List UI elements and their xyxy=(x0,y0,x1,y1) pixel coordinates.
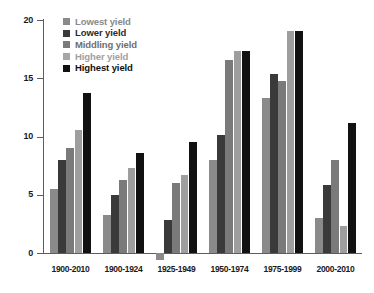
bar xyxy=(278,81,286,253)
y-tick-label: 10 xyxy=(0,132,33,141)
bar xyxy=(340,226,348,253)
bar-chart: 05101520 1900-20101900-19241925-19491950… xyxy=(0,0,374,293)
legend-label: Lowest yield xyxy=(75,17,131,27)
bar xyxy=(209,160,217,253)
bar xyxy=(234,51,242,253)
bar-group xyxy=(315,20,356,253)
bar xyxy=(119,180,127,253)
x-tick-label: 2000-2010 xyxy=(308,264,364,274)
legend-label: Lower yield xyxy=(75,28,126,38)
bar xyxy=(217,135,225,253)
bar xyxy=(75,130,83,253)
legend-item: Middling yield xyxy=(63,39,137,51)
bar-group xyxy=(156,20,197,253)
bar xyxy=(156,253,164,260)
y-tick-label: 5 xyxy=(0,190,33,199)
x-tick-label: 1975-1999 xyxy=(255,264,311,274)
bar xyxy=(83,93,91,253)
y-tick-label: 15 xyxy=(0,74,33,83)
bar xyxy=(189,142,197,253)
legend-item: Lower yield xyxy=(63,28,137,40)
legend-item: Higher yield xyxy=(63,51,137,63)
bar xyxy=(315,218,323,253)
bar xyxy=(136,153,144,253)
legend-swatch-icon xyxy=(63,53,70,60)
y-tick-label: 20 xyxy=(0,16,33,25)
x-tick-label: 1900-1924 xyxy=(96,264,152,274)
legend-swatch-icon xyxy=(63,18,70,25)
bar-group xyxy=(262,20,303,253)
legend-swatch-icon xyxy=(63,41,70,48)
legend-label: Middling yield xyxy=(75,40,137,50)
bar xyxy=(242,51,250,253)
bar xyxy=(270,74,278,253)
y-tick-mark xyxy=(37,20,44,21)
y-tick-mark xyxy=(37,137,44,138)
x-tick-label: 1950-1974 xyxy=(202,264,258,274)
bar xyxy=(331,160,339,253)
bar xyxy=(348,123,356,253)
x-axis-line xyxy=(43,253,362,254)
bar-group xyxy=(209,20,250,253)
bar xyxy=(262,98,270,253)
legend-label: Higher yield xyxy=(75,52,128,62)
legend-swatch-icon xyxy=(63,65,70,72)
x-tick-label: 1925-1949 xyxy=(149,264,205,274)
legend-label: Highest yield xyxy=(75,63,133,73)
legend-item: Highest yield xyxy=(63,62,137,74)
bar xyxy=(58,160,66,253)
bar xyxy=(128,168,136,253)
bar xyxy=(181,175,189,253)
bar xyxy=(103,215,111,253)
bar xyxy=(164,220,172,253)
bar xyxy=(323,185,331,253)
y-tick-label: 0 xyxy=(0,249,33,258)
bar xyxy=(225,60,233,253)
legend-swatch-icon xyxy=(63,30,70,37)
y-tick-mark xyxy=(37,78,44,79)
bar xyxy=(111,195,119,253)
chart-legend: Lowest yieldLower yieldMiddling yieldHig… xyxy=(63,16,137,74)
y-tick-mark xyxy=(37,253,44,254)
bar xyxy=(287,31,295,254)
legend-item: Lowest yield xyxy=(63,16,137,28)
bar xyxy=(50,189,58,253)
bar xyxy=(172,183,180,253)
y-tick-mark xyxy=(37,195,44,196)
bar xyxy=(66,148,74,253)
bar xyxy=(295,31,303,254)
x-tick-label: 1900-2010 xyxy=(43,264,99,274)
